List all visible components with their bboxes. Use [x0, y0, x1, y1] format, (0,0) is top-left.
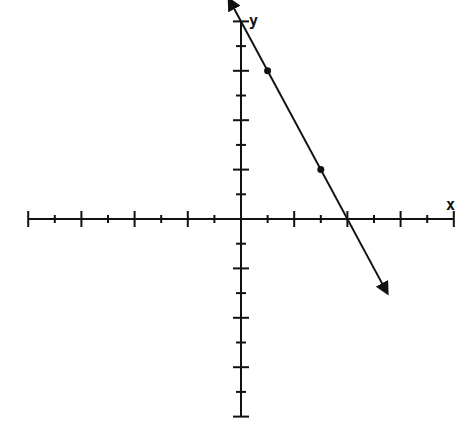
- data-point: [317, 166, 324, 173]
- data-point: [264, 67, 271, 74]
- y-axis-label: y: [249, 14, 258, 29]
- x-axis-label: x: [446, 198, 455, 213]
- coordinate-plane: [0, 0, 473, 440]
- graph-line: [229, 0, 387, 293]
